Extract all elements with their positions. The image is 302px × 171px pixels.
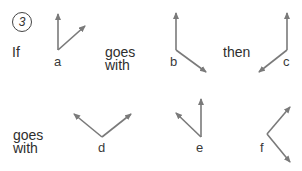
- arrow-figures: [0, 0, 302, 171]
- arrow-figure-d: [74, 114, 131, 137]
- arrow-figure-c: [259, 13, 287, 72]
- arrow-figure-f: [267, 107, 290, 162]
- arrow-figure-e: [176, 99, 201, 137]
- arrow-figure-b: [176, 13, 206, 72]
- arrow-figure-a: [58, 14, 85, 50]
